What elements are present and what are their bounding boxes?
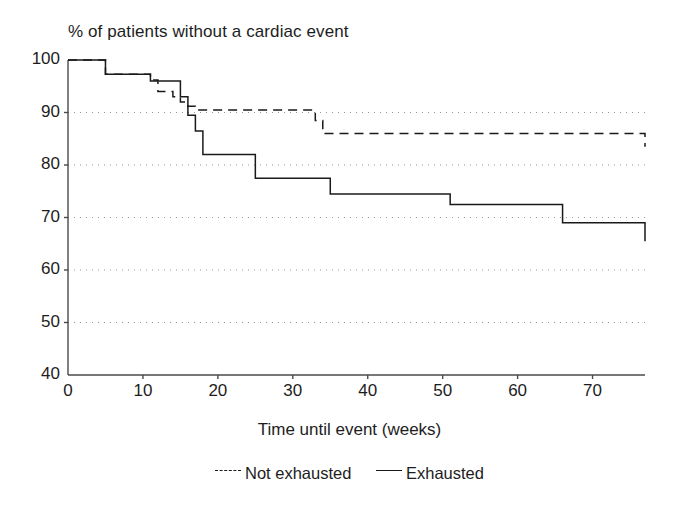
gridlines	[68, 113, 645, 323]
series-line-exhausted	[68, 60, 645, 241]
legend-swatch-dashed-icon	[215, 470, 241, 471]
series-layer	[68, 60, 645, 241]
y-tick-label: 60	[14, 259, 60, 279]
legend-item-exhausted: Exhausted	[376, 463, 484, 483]
x-axis-label: Time until event (weeks)	[0, 420, 699, 440]
x-tick-label: 30	[273, 381, 313, 401]
legend-swatch-solid-icon	[376, 470, 402, 471]
y-tick-label: 80	[14, 154, 60, 174]
chart-legend: Not exhausted Exhausted	[0, 462, 699, 483]
x-tick-label: 70	[573, 381, 613, 401]
legend-label-exhausted: Exhausted	[406, 464, 484, 482]
x-tick-label: 60	[498, 381, 538, 401]
x-tick-label: 40	[348, 381, 388, 401]
x-tick-label: 50	[423, 381, 463, 401]
series-line-not-exhausted	[68, 60, 645, 147]
legend-label-not-exhausted: Not exhausted	[245, 464, 351, 482]
x-tick-label: 10	[123, 381, 163, 401]
legend-item-not-exhausted: Not exhausted	[215, 463, 351, 483]
x-tick-label: 20	[198, 381, 238, 401]
axis-lines	[64, 60, 645, 379]
y-tick-label: 100	[14, 49, 60, 69]
y-tick-label: 50	[14, 312, 60, 332]
y-tick-label: 70	[14, 207, 60, 227]
x-tick-label: 0	[48, 381, 88, 401]
kaplan-meier-chart: % of patients without a cardiac event 40…	[0, 0, 699, 509]
y-tick-label: 90	[14, 102, 60, 122]
chart-title: % of patients without a cardiac event	[68, 22, 349, 42]
